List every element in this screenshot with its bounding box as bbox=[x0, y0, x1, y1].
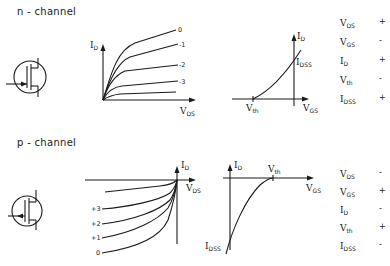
table-row: Vth + bbox=[340, 223, 390, 235]
p-transfer-y-label: ID bbox=[234, 160, 242, 171]
table-row: VDS - bbox=[340, 169, 390, 181]
p-channel-transfer-chart bbox=[0, 0, 390, 266]
table-row: IDSS - bbox=[340, 241, 390, 253]
table-row: ID - bbox=[340, 205, 390, 217]
p-channel-sign-table: VDS - VGS + ID - Vth + IDSS - bbox=[340, 169, 390, 266]
p-transfer-vth-label: Vth bbox=[268, 164, 281, 175]
table-row: VGS + bbox=[340, 187, 390, 199]
p-transfer-idss-label: IDSS bbox=[205, 241, 221, 252]
p-transfer-x-label: VGS bbox=[306, 183, 321, 194]
